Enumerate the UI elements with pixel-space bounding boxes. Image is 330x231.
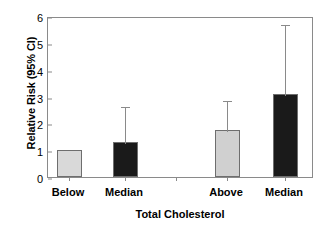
error-bar-cap xyxy=(223,101,232,102)
y-tick-label: 2 xyxy=(37,120,43,131)
error-bar-line xyxy=(125,107,126,145)
bar-below-0 xyxy=(57,150,82,177)
y-tick-mark xyxy=(48,18,52,19)
plot-area: 0123456 xyxy=(47,17,313,178)
y-tick-label: 5 xyxy=(37,39,43,50)
relative-risk-bar-chart: Relative Risk (95% CI) 0123456 BelowMedi… xyxy=(0,0,330,231)
y-tick-mark xyxy=(48,179,52,180)
y-tick-mark xyxy=(48,152,52,153)
error-bar-line xyxy=(285,25,286,96)
x-tick-mark xyxy=(176,177,177,181)
x-tick-mark xyxy=(69,177,70,181)
y-tick-mark xyxy=(48,71,52,72)
x-tick-label: Median xyxy=(265,186,303,198)
y-tick-label: 1 xyxy=(37,147,43,158)
x-tick-label: Below xyxy=(52,186,84,198)
x-tick-label: Above xyxy=(209,186,243,198)
x-tick-mark xyxy=(125,177,126,181)
y-tick-label: 4 xyxy=(37,66,43,77)
y-tick-label: 0 xyxy=(37,174,43,185)
y-tick-mark xyxy=(48,98,52,99)
error-bar-cap xyxy=(281,25,290,26)
y-tick-label: 6 xyxy=(37,13,43,24)
x-axis-title: Total Cholesterol xyxy=(47,208,313,220)
bar-median-3 xyxy=(273,94,298,177)
error-bar-cap xyxy=(121,107,130,108)
x-tick-mark xyxy=(227,177,228,181)
bar-median-1 xyxy=(113,142,138,177)
x-tick-label: Median xyxy=(105,186,143,198)
error-bar-line xyxy=(227,101,228,132)
bar-above-2 xyxy=(215,130,240,177)
y-tick-mark xyxy=(48,125,52,126)
y-axis-title: Relative Risk (95% CI) xyxy=(25,18,37,168)
x-tick-mark xyxy=(285,177,286,181)
y-tick-label: 3 xyxy=(37,93,43,104)
y-tick-mark xyxy=(48,44,52,45)
